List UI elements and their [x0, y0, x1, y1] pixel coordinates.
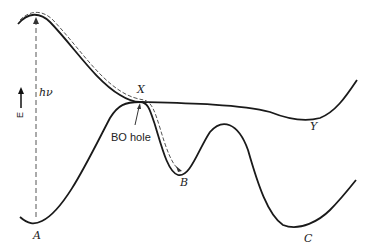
- point-y-label: Y: [310, 120, 317, 133]
- energy-axis-label: E: [15, 112, 25, 118]
- point-b-label: B: [180, 176, 188, 189]
- point-x-label: X: [137, 83, 145, 96]
- excitation-label: hν: [39, 86, 53, 99]
- point-c-label: C: [304, 232, 312, 245]
- point-a-label: A: [33, 229, 41, 242]
- bo-hole-label: BO hole: [111, 131, 151, 143]
- bo-hole-pointer: [135, 107, 139, 125]
- trajectory-arrowhead: [176, 166, 182, 172]
- energy-axis-arrowhead: [18, 87, 24, 94]
- bo-hole-pointer-arrowhead: [137, 103, 141, 109]
- upper-surface-curve: [18, 15, 357, 120]
- excitation-arrowhead: [33, 17, 39, 24]
- energy-diagram: [0, 0, 374, 250]
- lower-surface-curve: [20, 102, 356, 227]
